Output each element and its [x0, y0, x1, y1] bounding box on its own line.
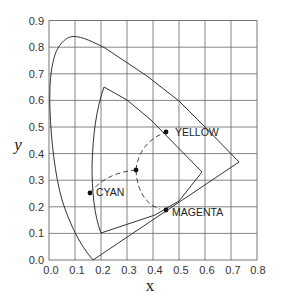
- magenta-point: [164, 208, 169, 213]
- spectral-locus-curve: [50, 36, 239, 260]
- svg-text:0.5: 0.5: [29, 121, 44, 133]
- svg-text:0.0: 0.0: [43, 264, 58, 276]
- svg-text:0.8: 0.8: [29, 41, 44, 53]
- cyan-point: [88, 191, 93, 196]
- svg-text:0.3: 0.3: [29, 174, 44, 186]
- y-axis-ticks: 0.0 0.1 0.2 0.3 0.4 0.5 0.6 0.7 0.8 0.9: [29, 15, 44, 266]
- svg-text:0.8: 0.8: [250, 264, 265, 276]
- svg-text:0.7: 0.7: [225, 264, 240, 276]
- x-axis-label: x: [146, 276, 155, 295]
- svg-text:0.4: 0.4: [147, 264, 162, 276]
- yellow-label: YELLOW: [175, 126, 219, 138]
- white-point: [134, 168, 139, 173]
- x-axis-ticks: 0.0 0.1 0.2 0.3 0.4 0.5 0.6 0.7 0.8: [43, 264, 265, 276]
- svg-text:0.6: 0.6: [29, 94, 44, 106]
- svg-text:0.3: 0.3: [121, 264, 136, 276]
- cyan-label: CYAN: [96, 186, 124, 198]
- grid: [49, 21, 257, 260]
- y-axis-label: y: [12, 135, 22, 154]
- svg-text:0.7: 0.7: [29, 68, 44, 80]
- svg-text:0.6: 0.6: [199, 264, 214, 276]
- data-points: [88, 130, 169, 213]
- magenta-label: MAGENTA: [172, 206, 223, 218]
- svg-text:0.5: 0.5: [173, 264, 188, 276]
- yellow-point: [164, 130, 169, 135]
- svg-text:0.4: 0.4: [29, 148, 44, 160]
- chromaticity-chart: YELLOW CYAN MAGENTA 0.0 0.1 0.2 0.3 0.4 …: [0, 0, 282, 306]
- svg-text:0.9: 0.9: [29, 15, 44, 27]
- svg-text:0.1: 0.1: [69, 264, 84, 276]
- svg-text:0.2: 0.2: [95, 264, 110, 276]
- svg-text:0.2: 0.2: [29, 201, 44, 213]
- svg-text:0.1: 0.1: [29, 227, 44, 239]
- svg-text:0.0: 0.0: [29, 254, 44, 266]
